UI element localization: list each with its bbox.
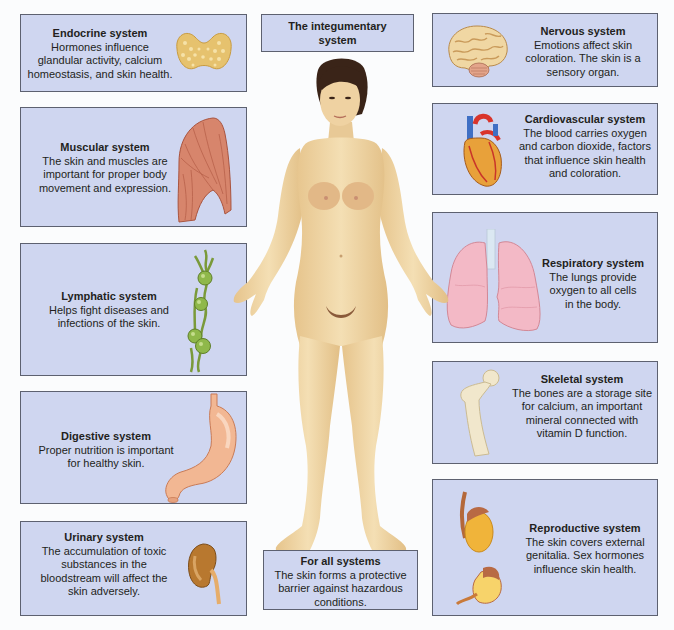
kidney-icon (187, 542, 227, 608)
panel-all-systems: For all systems The skin forms a protect… (263, 550, 418, 610)
panel-reproductive: Reproductive system The skin covers exte… (432, 479, 658, 616)
panel-muscular: Muscular system The skin and muscles are… (20, 107, 247, 227)
femur-bone-icon (453, 368, 503, 458)
lungs-icon (441, 229, 545, 335)
panel-respiratory: Respiratory system The lungs provide oxy… (432, 212, 658, 343)
panel-cardiovascular: Cardiovascular system The blood carries … (432, 103, 658, 195)
panel-title: Endocrine system (25, 27, 175, 41)
panel-lymphatic: Lymphatic system Helps fight diseases an… (20, 243, 247, 376)
panel-nervous: Nervous system Emotions affect skin colo… (432, 13, 658, 87)
panel-skeletal: Skeletal system The bones are a storage … (432, 361, 658, 464)
diagram-title-line1: The integumentary (262, 20, 413, 34)
heart-icon (459, 112, 505, 190)
gonads-icon (453, 488, 513, 610)
human-figure-illustration (226, 56, 456, 550)
diagram-title-line2: system (262, 34, 413, 48)
panel-urinary: Urinary system The accumulation of toxic… (20, 521, 247, 616)
panel-digestive: Digestive system Proper nutrition is imp… (20, 391, 247, 504)
lymph-nodes-icon (181, 248, 221, 374)
diagram-title-box: The integumentary system (261, 14, 414, 52)
panel-endocrine: Endocrine system Hormones influence glan… (20, 14, 247, 92)
